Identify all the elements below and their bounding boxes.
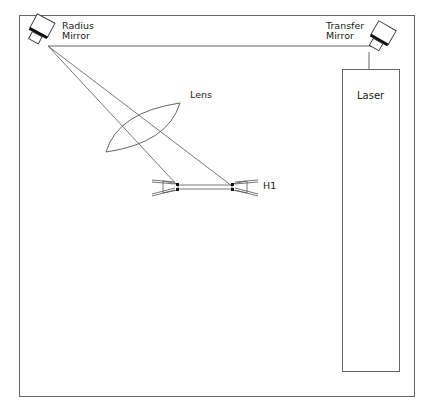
h1-label: H1	[263, 181, 276, 191]
ray-right	[48, 46, 232, 186]
lens-label: Lens	[190, 90, 212, 100]
transfer-mirror-label: Transfer Mirror	[326, 21, 364, 41]
radius-mirror-icon	[25, 14, 55, 46]
laser-label: Laser	[357, 91, 384, 101]
radius-mirror-label: Radius Mirror	[62, 21, 94, 41]
transfer-mirror-label-line2: Mirror	[326, 31, 364, 41]
optical-diagram	[0, 0, 428, 413]
radius-mirror-label-line2: Mirror	[62, 31, 94, 41]
lens-icon	[106, 103, 180, 152]
h1-hologram-icon	[152, 180, 258, 196]
transfer-mirror-icon	[366, 21, 396, 54]
laser-box	[343, 70, 400, 372]
ray-left	[48, 46, 178, 186]
